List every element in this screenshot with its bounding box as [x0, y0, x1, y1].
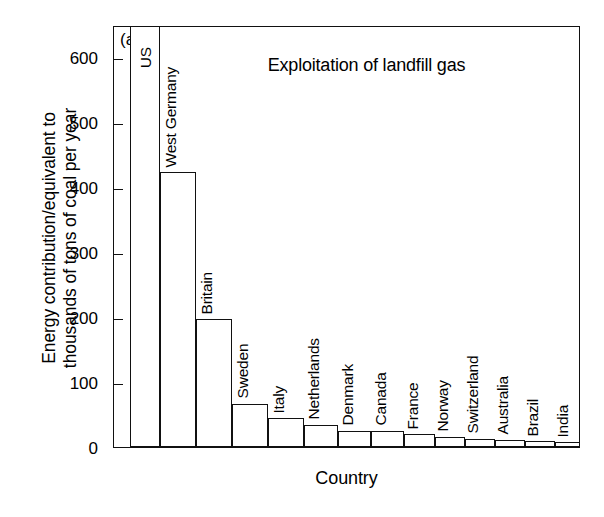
bar-netherlands[interactable]: Netherlands — [304, 425, 338, 447]
bar-france[interactable]: France — [404, 434, 435, 447]
plot-area: (a) Exploitation of landfill gas USWest … — [113, 26, 580, 448]
bar-label-brazil: Brazil — [525, 399, 541, 437]
bar-india[interactable]: India — [555, 442, 580, 447]
y-tick-label-600: 600 — [56, 50, 98, 67]
y-tick-label-0: 0 — [56, 440, 98, 457]
bar-label-australia: Australia — [495, 376, 511, 435]
bar-australia[interactable]: Australia — [495, 440, 525, 447]
bar-label-france: France — [405, 382, 421, 429]
y-tick-label-400: 400 — [56, 180, 98, 197]
bar-label-us: US — [138, 47, 154, 68]
bar-label-west-germany: West Germany — [163, 67, 179, 168]
bar-label-britain: Britain — [199, 272, 215, 315]
figure-panel-a: Energy contribution/equivalent to thousa… — [0, 0, 604, 517]
x-axis-title: Country — [113, 468, 580, 489]
bar-denmark[interactable]: Denmark — [338, 431, 371, 447]
bar-us[interactable]: US — [130, 26, 160, 447]
bar-brazil[interactable]: Brazil — [525, 441, 555, 447]
bar-norway[interactable]: Norway — [435, 437, 465, 447]
bar-label-denmark: Denmark — [340, 364, 356, 425]
y-tick-label-200: 200 — [56, 310, 98, 327]
bar-switzerland[interactable]: Switzerland — [465, 439, 495, 447]
bar-label-norway: Norway — [435, 380, 451, 431]
bar-west-germany[interactable]: West Germany — [160, 172, 196, 447]
y-tick-label-100: 100 — [56, 375, 98, 392]
y-tick-label-300: 300 — [56, 245, 98, 262]
bar-label-india: India — [555, 405, 571, 438]
bar-label-sweden: Sweden — [235, 344, 251, 399]
y-axis-tick-labels: 0100200300400500600 — [50, 0, 98, 517]
bar-label-switzerland: Switzerland — [465, 356, 481, 434]
bar-britain[interactable]: Britain — [196, 319, 232, 447]
bar-sweden[interactable]: Sweden — [232, 404, 268, 447]
bar-italy[interactable]: Italy — [268, 418, 304, 447]
bar-label-italy: Italy — [271, 386, 287, 413]
y-tick-label-500: 500 — [56, 115, 98, 132]
bar-label-netherlands: Netherlands — [306, 339, 322, 420]
bar-series: USWest GermanyBritainSwedenItalyNetherla… — [114, 27, 579, 447]
bar-label-canada: Canada — [373, 373, 389, 426]
bar-canada[interactable]: Canada — [371, 431, 404, 447]
